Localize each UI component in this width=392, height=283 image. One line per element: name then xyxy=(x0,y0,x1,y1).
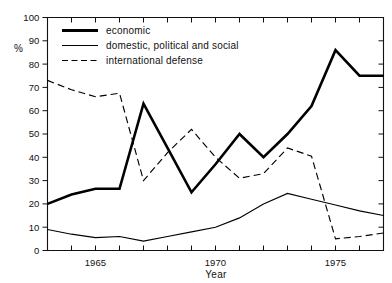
legend-label-defense: international defense xyxy=(106,55,203,66)
x-tick-label: 1970 xyxy=(205,257,227,268)
x-axis-tick-labels: 196519701975 xyxy=(85,257,347,268)
line-chart-figure: 0102030405060708090100 196519701975 % Ye… xyxy=(0,0,392,283)
y-tick-label: 0 xyxy=(34,245,39,256)
y-axis-unit-label: % xyxy=(14,43,23,54)
x-axis-ticks xyxy=(48,246,384,251)
y-axis-tick-labels: 0102030405060708090100 xyxy=(23,12,39,256)
series-line-domestic-political-social xyxy=(48,193,384,241)
x-tick-label: 1975 xyxy=(325,257,347,268)
legend-label-domestic: domestic, political and social xyxy=(106,40,239,51)
series-line-economic xyxy=(48,50,384,204)
y-tick-label: 100 xyxy=(23,12,39,23)
y-tick-label: 90 xyxy=(29,35,40,46)
y-tick-label: 70 xyxy=(29,82,40,93)
chart-legend: economic domestic, political and social … xyxy=(62,25,239,66)
y-axis-ticks xyxy=(43,18,48,251)
data-series-group xyxy=(48,50,384,241)
y-tick-label: 30 xyxy=(29,175,40,186)
series-line-international-defense xyxy=(48,80,384,238)
y-tick-label: 10 xyxy=(29,222,40,233)
y-tick-label: 80 xyxy=(29,59,40,70)
x-axis-title: Year xyxy=(205,269,227,280)
legend-label-economic: economic xyxy=(106,25,150,36)
x-axis-ticks-top xyxy=(48,18,384,23)
chart-container: 0102030405060708090100 196519701975 % Ye… xyxy=(0,0,392,283)
y-tick-label: 40 xyxy=(29,152,40,163)
y-tick-label: 50 xyxy=(29,128,40,139)
y-tick-label: 20 xyxy=(29,198,40,209)
y-tick-label: 60 xyxy=(29,105,40,116)
x-tick-label: 1965 xyxy=(85,257,107,268)
